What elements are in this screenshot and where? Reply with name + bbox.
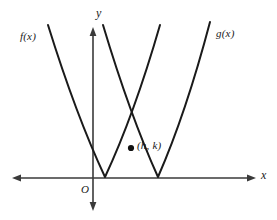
- x-axis-right-arrowhead: [247, 175, 256, 182]
- parabolas-figure: f(x) g(x) y x O (h, k): [0, 0, 277, 220]
- curve-label-f: f(x): [20, 31, 36, 42]
- y-axis-down-arrowhead: [90, 202, 97, 211]
- curve-label-g: g(x): [216, 28, 235, 39]
- curve-f-parabola: [48, 25, 160, 177]
- y-axis-label: y: [96, 7, 102, 19]
- origin-label: O: [81, 184, 89, 195]
- y-axis-up-arrowhead: [90, 27, 97, 36]
- intersection-point-label: (h, k): [137, 140, 161, 151]
- x-axis-left-arrowhead: [12, 175, 21, 182]
- curve-g-parabola: [103, 22, 210, 177]
- graph-canvas: [0, 0, 277, 220]
- intersection-point-dot: [128, 145, 134, 151]
- x-axis-label: x: [261, 169, 267, 181]
